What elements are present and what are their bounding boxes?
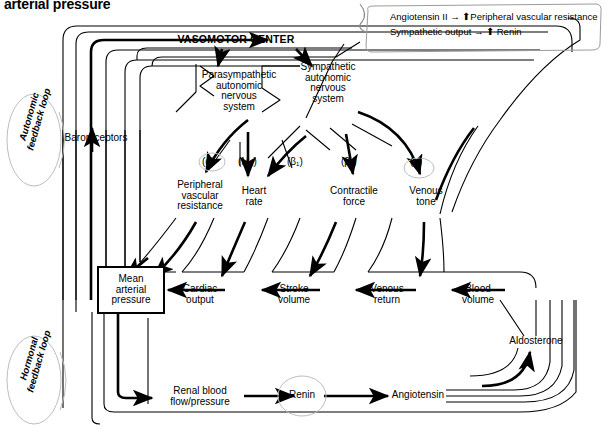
node-aldosterone: Aldosterone	[498, 336, 574, 347]
node-venous-tone: Venous tone	[396, 186, 456, 207]
node-blood-volume: Blood volume	[448, 284, 508, 305]
node-renin: Renin	[278, 390, 326, 401]
receptor-beta1-contractile-force: (β₁)	[341, 156, 357, 167]
diagram-canvas: arterial pressure Angiotensin II → ⬆Peri…	[0, 0, 607, 429]
node-venous-return: Venous return	[357, 284, 417, 305]
node-baroreceptors: Baroreceptors	[58, 133, 134, 144]
node-parasympathetic-ans: Parasympathetic autonomic nervous system	[190, 70, 288, 112]
receptor-m2-heart-rate: (M₂)	[238, 156, 257, 167]
node-renal-blood-flow: Renal blood flow/pressure	[155, 386, 245, 407]
node-stroke-volume: Stroke volume	[264, 284, 324, 305]
node-angiotensin: Angiotensin	[382, 390, 454, 401]
page-title: arterial pressure	[4, 0, 110, 12]
node-sympathetic-ans: Sympathetic autonomic nervous system	[288, 62, 368, 104]
receptor-alpha-pvr: (α)	[202, 156, 214, 167]
node-cardiac-output: Cardiac output	[168, 284, 232, 305]
legend-line-1: Angiotensin II → ⬆Peripheral vascular re…	[390, 11, 598, 23]
node-vasomotor-center: VASOMOTOR CENTER	[168, 34, 304, 45]
receptor-beta1-heart-rate: (β₁)	[287, 156, 303, 167]
node-mean-arterial-pressure: Mean arterial pressure	[97, 266, 165, 314]
legend-line-2: Sympathetic output → ⬆ Renin	[390, 26, 522, 38]
node-contractile-force: Contractile force	[316, 186, 392, 207]
receptor-alpha-venous-tone: (α)	[410, 156, 422, 167]
node-heart-rate: Heart rate	[228, 186, 280, 207]
